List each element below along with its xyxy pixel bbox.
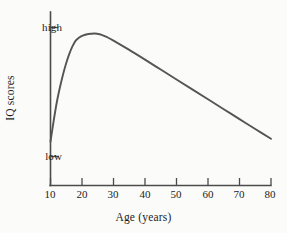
x-tick-label-70: 70 [233, 189, 244, 200]
x-tick-label-30: 30 [107, 189, 118, 200]
y-axis-title: IQ scores [4, 75, 16, 121]
x-tick-label-80: 80 [264, 189, 275, 200]
y-tick-label-low: low [45, 151, 62, 162]
x-axis-title: Age (years) [0, 211, 287, 223]
x-tick-label-20: 20 [76, 189, 87, 200]
y-tick-label-high: high [42, 22, 62, 33]
iq-vs-age-chart: 10 20 30 40 50 60 70 80 high low Age (ye… [0, 0, 287, 233]
x-tick-label-10: 10 [44, 189, 55, 200]
x-tick-label-50: 50 [170, 189, 181, 200]
iq-score-curve [51, 33, 272, 141]
x-tick-label-60: 60 [202, 189, 213, 200]
x-tick-label-40: 40 [139, 189, 150, 200]
